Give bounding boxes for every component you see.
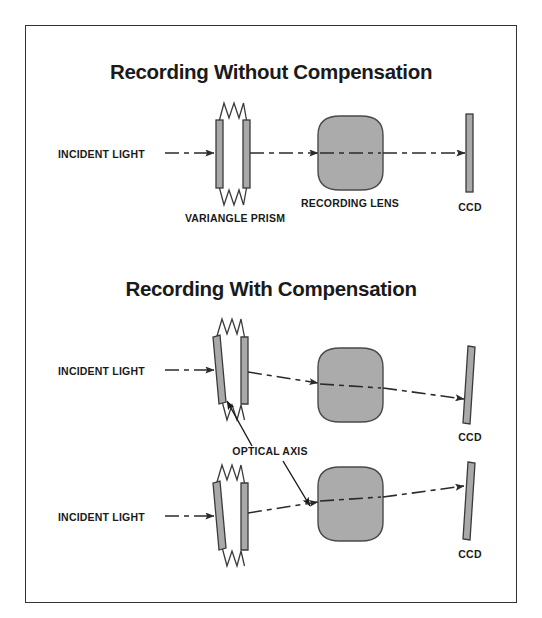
prism-plate-left-row1 [216,120,223,188]
ray-prism-to-lens-row3 [248,502,318,513]
prism-plate-right-row1 [243,120,250,188]
prism-bellows-top-row3 [217,465,245,483]
ccd-row3 [463,462,475,540]
ray-lens-to-ccd-row2 [383,388,464,399]
variangle-prism-label-row1: VARIANGLE PRISM [185,212,285,224]
incident-light-label-row3: INCIDENT LIGHT [58,511,145,523]
recording-lens-label-row1: RECORDING LENS [301,197,399,209]
ray-lens-to-ccd-row3 [383,486,464,497]
ccd-label-row2: CCD [458,431,482,443]
optical-diagram: Recording Without Compensation INCIDENT … [0,0,542,618]
recording-lens-row3 [318,467,383,541]
variangle-prism-row3 [213,465,248,566]
ccd-row2 [463,346,475,424]
variangle-prism-row1 [216,103,250,205]
prism-bellows-top-row1 [220,103,247,120]
section-title-without-compensation: Recording Without Compensation [110,60,432,83]
ccd-label-row1: CCD [458,201,482,213]
prism-plate-left-row3 [213,481,226,550]
ccd-row1 [466,114,473,192]
row-compensated-up: INCIDENT LIGHT CCD [58,462,482,566]
optical-axis-leader-down [283,461,310,506]
prism-plate-right-row3 [241,483,248,550]
figure-page: Recording Without Compensation INCIDENT … [0,0,542,618]
prism-bellows-top-row2 [217,319,245,337]
ray-prism-to-lens-row2 [248,372,318,383]
incident-light-label-row2: INCIDENT LIGHT [58,365,145,377]
prism-plate-right-row2 [241,337,248,404]
row-uncompensated: INCIDENT LIGHT VARIANGLE PRISM RECORDING [58,103,482,224]
prism-plate-left-row2 [213,335,226,404]
optical-axis-annotation: OPTICAL AXIS [227,401,310,506]
section-title-with-compensation: Recording With Compensation [125,277,416,300]
optical-axis-leader-up [227,401,252,446]
row-compensated-down: INCIDENT LIGHT CCD [58,319,482,443]
variangle-prism-row2 [213,319,248,420]
optical-axis-label: OPTICAL AXIS [232,445,307,457]
prism-bellows-bottom-row3 [223,549,245,566]
ccd-label-row3: CCD [458,548,482,560]
prism-bellows-bottom-row1 [220,188,247,205]
incident-light-label-row1: INCIDENT LIGHT [58,148,145,160]
